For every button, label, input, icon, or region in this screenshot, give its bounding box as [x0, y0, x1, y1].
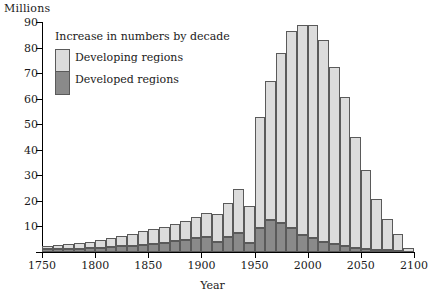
y-tick-label: 50: [24, 118, 38, 131]
bar-segment-developing: [276, 53, 287, 223]
x-tick-label: 2100: [400, 259, 428, 272]
bar-2050: [361, 170, 372, 252]
bar-segment-developed: [159, 243, 170, 252]
bar-1820: [116, 236, 127, 252]
bar-segment-developed: [106, 247, 117, 252]
x-tick-mark: [42, 252, 43, 258]
y-axis-title: Millions: [4, 2, 50, 15]
bar-segment-developing: [371, 199, 382, 250]
bar-1960: [265, 81, 276, 252]
bar-segment-developed: [244, 243, 255, 252]
legend-label-developed: Developed regions: [75, 69, 230, 91]
bar-1810: [106, 238, 117, 252]
bar-1780: [74, 243, 85, 252]
bar-segment-developing: [212, 214, 223, 242]
bar-2060: [371, 199, 382, 252]
bar-segment-developed: [201, 237, 212, 252]
legend-entries: Developing regions Developed regions: [55, 47, 230, 91]
bar-1850: [148, 229, 159, 252]
bar-1830: [127, 234, 138, 252]
bar-segment-developing: [53, 245, 64, 249]
bar-segment-developed: [371, 250, 382, 252]
bar-segment-developing: [95, 240, 106, 248]
bar-segment-developed: [329, 244, 340, 252]
bar-segment-developing: [201, 213, 212, 237]
bar-1920: [223, 203, 234, 252]
bar-segment-developed: [308, 238, 319, 252]
bar-segment-developed: [233, 233, 244, 252]
bar-segment-developed: [340, 246, 351, 252]
bar-2020: [329, 67, 340, 252]
bar-1980: [286, 31, 297, 252]
bar-segment-developing: [127, 234, 138, 246]
bar-segment-developed: [180, 240, 191, 252]
y-tick-label: 60: [24, 92, 38, 105]
bar-1860: [159, 227, 170, 252]
x-axis-title: Year: [0, 279, 425, 292]
bar-1970: [276, 53, 287, 252]
bar-segment-developed: [42, 249, 53, 252]
legend-title: Increase in numbers by decade: [55, 30, 230, 43]
legend-label-developing: Developing regions: [75, 47, 230, 69]
bar-segment-developing: [191, 217, 202, 238]
bar-segment-developed: [116, 246, 127, 252]
bar-segment-developing: [106, 238, 117, 247]
bar-segment-developed: [223, 237, 234, 252]
bar-segment-developing: [138, 231, 149, 244]
bar-segment-developing: [329, 67, 340, 245]
x-tick-label: 1800: [81, 259, 109, 272]
y-tick-label: 20: [24, 194, 38, 207]
bar-segment-developing: [382, 219, 393, 251]
bar-segment-developing: [148, 229, 159, 243]
bar-1930: [233, 189, 244, 252]
y-tick-label: 80: [24, 41, 38, 54]
bar-segment-developed: [350, 248, 361, 252]
bar-1940: [244, 206, 255, 252]
bar-segment-developing: [308, 25, 319, 238]
x-tick-label: 1850: [134, 259, 162, 272]
bar-segment-developing: [318, 40, 329, 242]
bar-1950: [255, 117, 266, 252]
x-tick-mark: [148, 252, 149, 258]
legend-swatch-developing: [56, 50, 69, 72]
bar-segment-developed: [265, 220, 276, 252]
bar-segment-developing: [297, 25, 308, 236]
bar-segment-developed: [74, 249, 85, 252]
bar-1840: [138, 231, 149, 252]
bar-segment-developing: [286, 31, 297, 228]
bar-1800: [95, 240, 106, 252]
x-axis-line: [42, 252, 415, 253]
bar-1880: [180, 221, 191, 252]
bar-segment-developing: [42, 246, 53, 250]
bar-segment-developed: [85, 248, 96, 252]
bar-2080: [393, 234, 404, 252]
x-tick-label: 1950: [241, 259, 269, 272]
bar-segment-developing: [180, 221, 191, 240]
x-tick-label: 2000: [294, 259, 322, 272]
y-tick-label: 30: [24, 169, 38, 182]
x-tick-mark: [201, 252, 202, 258]
bar-segment-developed: [297, 235, 308, 252]
bar-segment-developing: [350, 137, 361, 248]
bar-2040: [350, 137, 361, 252]
bar-2000: [308, 25, 319, 252]
bar-segment-developed: [191, 238, 202, 252]
x-tick-label: 1750: [28, 259, 56, 272]
x-tick-label: 1900: [187, 259, 215, 272]
y-tick-label: 40: [24, 143, 38, 156]
bar-segment-developed: [361, 249, 372, 252]
x-tick-label: 2050: [347, 259, 375, 272]
bar-segment-developing: [170, 224, 181, 241]
bar-segment-developing: [159, 227, 170, 243]
x-tick-mark: [95, 252, 96, 258]
legend-swatch-column: [55, 49, 70, 95]
y-tick-label: 70: [24, 67, 38, 80]
bar-segment-developing: [223, 203, 234, 236]
bar-segment-developing: [116, 236, 127, 246]
bar-1900: [201, 213, 212, 252]
bar-1760: [53, 245, 64, 252]
bar-segment-developing: [255, 117, 266, 228]
bar-segment-developing: [233, 189, 244, 232]
bar-segment-developed: [63, 249, 74, 252]
